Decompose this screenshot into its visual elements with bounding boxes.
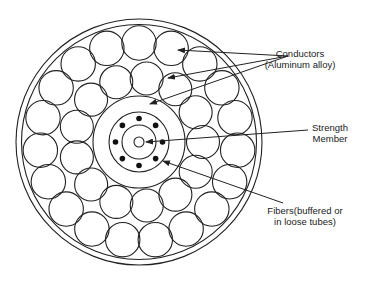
inner-conductor-strand: [179, 155, 212, 188]
fiber-dot: [136, 116, 142, 122]
outer-conductor-strand: [39, 71, 73, 105]
fiber-dot: [153, 156, 159, 162]
fibers-leader: [163, 161, 283, 203]
outer-conductor-strand: [90, 31, 124, 65]
fiber-dot: [113, 139, 119, 145]
inner-conductor-strand: [130, 189, 163, 222]
inner-conductor-strand: [100, 66, 133, 99]
conductors-label-line2: (Aluminum alloy): [260, 59, 340, 70]
outer-conductor-strand: [195, 192, 229, 226]
outer-conductor-strand: [218, 100, 252, 134]
outer-conductor-strand: [106, 222, 140, 256]
fibers-label-line2: in loose tubes): [260, 216, 350, 227]
inner-conductor-strand: [75, 83, 108, 116]
inner-conductor-strand: [60, 141, 93, 174]
fibers-label: Fibers(buffered or in loose tubes): [260, 205, 350, 227]
outer-conductor-strand: [23, 133, 57, 167]
strength-member-label-line1: Strength: [300, 122, 360, 133]
outer-conductor-strand: [169, 212, 203, 246]
inner-conductor-strand: [186, 125, 219, 158]
outer-conductor-strand: [49, 192, 83, 226]
outer-conductor-strand: [75, 212, 109, 246]
fiber-dot: [120, 156, 126, 162]
fiber-dot: [136, 163, 142, 169]
conductors-label: Conductors (Aluminum alloy): [260, 48, 340, 70]
inner-conductor-strand: [159, 73, 192, 106]
outer-conductor-strand: [212, 165, 246, 199]
fiber-dot: [120, 123, 126, 129]
outer-conductor-strand: [31, 165, 65, 199]
strength-member-label: Strength Member: [300, 122, 360, 144]
fiber-dot: [153, 123, 159, 129]
outer-conductor-strand: [122, 26, 156, 60]
fiber-dot: [160, 139, 166, 145]
outer-conductor-strand: [26, 100, 60, 134]
central-core: [93, 96, 185, 188]
inner-conductor-strand: [75, 168, 108, 201]
core-tube: [93, 96, 185, 188]
outer-conductor-strand: [205, 71, 239, 105]
inner-conductor-strand: [159, 178, 192, 211]
outer-conductor-strand: [138, 222, 172, 256]
inner-conductor-strand: [179, 96, 212, 129]
inner-conductor-strand: [60, 110, 93, 143]
outer-conductor-strand: [220, 133, 254, 167]
inner-conductor-strand: [130, 62, 163, 95]
fibers-label-line1: Fibers(buffered or: [260, 205, 350, 216]
conductors-label-line1: Conductors: [260, 48, 340, 59]
inner-conductor-strand: [100, 185, 133, 218]
strength-member-label-line2: Member: [300, 133, 360, 144]
